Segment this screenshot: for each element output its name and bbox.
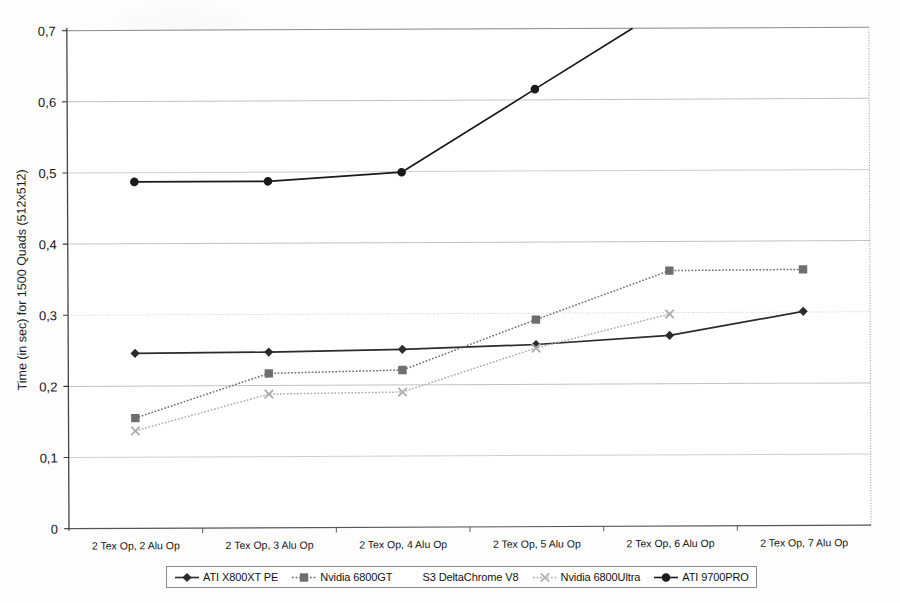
- legend-label: Nvidia 6800GT: [320, 572, 392, 583]
- legend-item-nvidia-6800ultra[interactable]: Nvidia 6800Ultra: [532, 572, 641, 583]
- data-point-marker: [300, 573, 308, 581]
- data-point-marker: [264, 177, 273, 186]
- legend-label: Nvidia 6800Ultra: [561, 572, 641, 583]
- x-axis-label: 2 Tex Op, 7 Alu Op: [760, 536, 848, 548]
- legend-label: ATI X800XT PE: [203, 572, 278, 583]
- legend-key-circle-icon: [653, 572, 679, 583]
- y-tick-label: 0,5: [38, 166, 56, 181]
- data-point-marker: [799, 265, 807, 273]
- legend-label: S3 DeltaChrome V8: [422, 572, 518, 583]
- plot-area: [67, 27, 871, 528]
- x-axis-label: 2 Tex Op, 3 Alu Op: [226, 539, 314, 551]
- x-axis-label: 2 Tex Op, 4 Alu Op: [359, 538, 447, 550]
- x-axis-label: 2 Tex Op, 5 Alu Op: [493, 537, 581, 549]
- legend-item-nvidia-6800gt[interactable]: Nvidia 6800GT: [291, 572, 392, 583]
- legend-label: ATI 9700PRO: [682, 572, 749, 583]
- data-point-marker: [532, 315, 540, 323]
- y-tick-label: 0,7: [38, 24, 56, 39]
- y-tick-label: 0,4: [39, 237, 57, 252]
- chart-legend: ATI X800XT PENvidia 6800GTS3 DeltaChrome…: [166, 566, 757, 588]
- y-tick-label: 0,6: [38, 95, 56, 110]
- x-axis-label: 2 Tex Op, 2 Alu Op: [92, 539, 180, 551]
- data-point-marker: [130, 178, 139, 187]
- data-point-marker: [265, 369, 273, 377]
- legend-item-ati-x800xt-pe[interactable]: ATI X800XT PE: [174, 572, 278, 583]
- data-point-marker: [182, 572, 191, 581]
- data-point-marker: [662, 573, 671, 582]
- data-point-marker: [398, 366, 406, 374]
- legend-key-diamond-icon: [174, 572, 200, 583]
- legend-item-s3-deltachrome-v8[interactable]: S3 DeltaChrome V8: [405, 572, 518, 583]
- x-axis-label: 2 Tex Op, 6 Alu Op: [627, 537, 715, 549]
- data-point-marker: [397, 168, 406, 177]
- x-axis-category-labels: 2 Tex Op, 2 Alu Op2 Tex Op, 3 Alu Op2 Te…: [92, 536, 848, 551]
- legend-key-blank-icon: [405, 572, 419, 583]
- data-point-marker: [531, 85, 540, 94]
- y-axis-ticks: 00,10,20,30,40,50,60,7: [38, 24, 69, 537]
- data-point-marker: [665, 266, 673, 274]
- legend-key-x-icon: [532, 572, 558, 583]
- y-tick-label: 0,3: [39, 308, 57, 323]
- legend-key-square-icon: [291, 572, 317, 583]
- y-tick-label: 0,2: [39, 379, 57, 394]
- y-tick-label: 0,1: [40, 451, 58, 466]
- legend-item-ati-9700pro[interactable]: ATI 9700PRO: [653, 572, 749, 583]
- chart-canvas: 00,10,20,30,40,50,60,7 Time (in sec) for…: [0, 0, 900, 603]
- y-axis-title: Time (in sec) for 1500 Quads (512x512): [14, 169, 29, 390]
- line-chart: 00,10,20,30,40,50,60,7 Time (in sec) for…: [0, 0, 900, 603]
- data-point-marker: [131, 414, 139, 422]
- y-tick-label: 0: [51, 522, 58, 537]
